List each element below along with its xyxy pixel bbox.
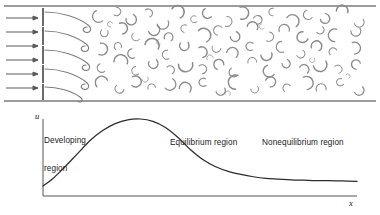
rollup-curve [45, 12, 91, 32]
developing-region-line2: region [44, 164, 86, 173]
turbulent-eddies [91, 3, 366, 97]
inflow-arrow [6, 86, 38, 90]
x-axis-label: x [349, 199, 353, 209]
rollup-curve [45, 31, 89, 51]
shear-layer-rollups [45, 12, 91, 102]
rollup-curve [45, 69, 89, 89]
y-axis-label: u [35, 112, 39, 122]
rollup-curve [45, 50, 90, 70]
inflow-arrows [6, 16, 38, 90]
velocity-curve [43, 119, 357, 186]
inflow-arrow [6, 16, 38, 20]
flow-field-panel [4, 3, 376, 102]
nonequilibrium-region-label: Nonequilibrium region [262, 138, 344, 147]
inflow-arrow [6, 72, 38, 76]
velocity-profile-panel [43, 119, 357, 196]
equilibrium-region-label: Equilibrium region [170, 138, 237, 147]
inflow-arrow [6, 44, 38, 48]
developing-region-line1: Developing [44, 136, 86, 145]
rollup-curve [45, 87, 82, 102]
inflow-arrow [6, 30, 38, 34]
figure-turbulent-boundary-layer: u Developing region Equilibrium region N… [0, 0, 380, 215]
inflow-arrow [6, 58, 38, 62]
developing-region-label: Developing region [44, 118, 86, 192]
